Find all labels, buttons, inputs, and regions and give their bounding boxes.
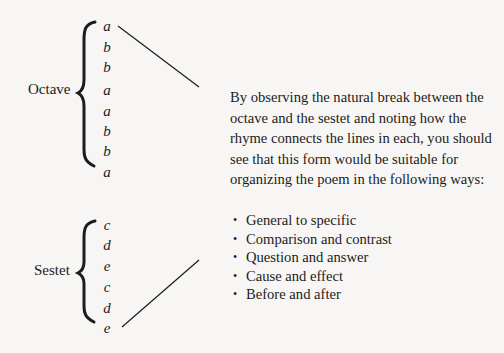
rhyme-letter: d [100, 236, 114, 254]
rhyme-letter: c [100, 216, 114, 234]
rhyme-letter: e [100, 319, 114, 337]
sestet-label: Sestet [34, 262, 70, 279]
rhyme-letter: a [100, 81, 114, 99]
rhyme-letter: b [100, 142, 114, 160]
sestet-brace [78, 221, 95, 322]
rhyme-letter: b [100, 58, 114, 76]
organization-ways-list: General to specific Comparison and contr… [232, 211, 392, 304]
rhyme-letter: a [100, 102, 114, 120]
rhyme-letter: b [100, 38, 114, 56]
rhyme-letter: d [100, 299, 114, 317]
rhyme-letter: a [100, 17, 114, 35]
list-item: Before and after [232, 285, 392, 304]
list-item: Cause and effect [232, 267, 392, 286]
octave-label: Octave [28, 81, 70, 98]
octave-brace [78, 22, 95, 166]
sestet-connector-line [122, 260, 199, 327]
rhyme-letter: c [100, 278, 114, 296]
rhyme-letter: e [100, 257, 114, 275]
list-item: Question and answer [232, 248, 392, 267]
explanation-paragraph: By observing the natural break between t… [230, 87, 498, 190]
list-item: Comparison and contrast [232, 230, 392, 249]
rhyme-letter: b [100, 122, 114, 140]
rhyme-letter: a [100, 163, 114, 181]
list-item: General to specific [232, 211, 392, 230]
octave-connector-line [118, 26, 199, 87]
